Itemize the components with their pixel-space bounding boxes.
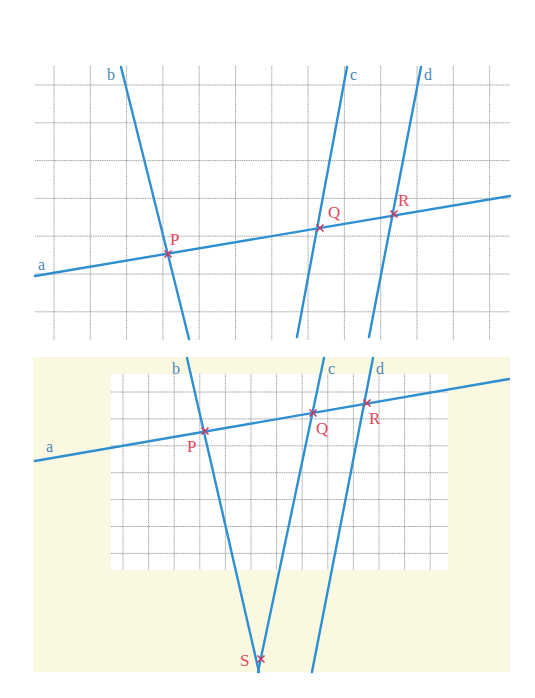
line-c [297, 67, 347, 337]
line-b [121, 67, 189, 339]
grid-panel [111, 374, 448, 570]
geometry-diagram: abcdPQR abcdPQRS [0, 0, 535, 698]
line-label-a: a [38, 256, 45, 273]
point-label-S: S [240, 651, 249, 670]
point-label-Q: Q [328, 203, 340, 222]
point-label-Q: Q [316, 419, 328, 438]
grid-top [35, 66, 510, 340]
line-label-d: d [424, 66, 432, 83]
point-label-P: P [187, 437, 196, 456]
line-d [369, 67, 421, 337]
point-label-R: R [369, 409, 381, 428]
line-label-c: c [350, 66, 357, 83]
point-label-P: P [170, 230, 179, 249]
line-label-c: c [328, 360, 335, 377]
line-label-d: d [376, 360, 384, 377]
point-label-R: R [398, 191, 410, 210]
line-label-b: b [172, 360, 180, 377]
lines-top: abcdPQR [35, 66, 510, 339]
line-label-a: a [46, 438, 53, 455]
line-label-b: b [107, 66, 115, 83]
